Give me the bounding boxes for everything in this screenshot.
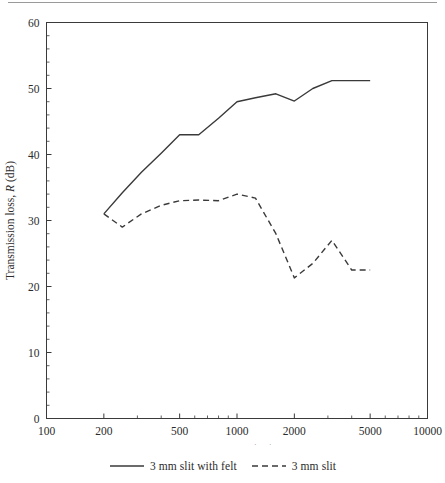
line-chart: 10020050010002000500010000 0102030405060…: [0, 0, 445, 445]
legend-entry-dashed: 3 mm slit: [251, 460, 336, 472]
y-tick-label: 50: [28, 83, 40, 95]
x-tick-label: 10000: [413, 425, 442, 437]
y-tick-label: 10: [28, 347, 40, 359]
y-tick-label: 30: [28, 215, 40, 227]
transmission-loss-figure: 10020050010002000500010000 0102030405060…: [0, 0, 445, 483]
data-series-layer: [104, 81, 370, 278]
x-tick-label: 5000: [359, 425, 382, 437]
y-axis-ticks: [47, 23, 52, 419]
plot-area-wrapper: 10020050010002000500010000 0102030405060…: [0, 0, 445, 445]
axis-titles: Frequency (Hz)Transmission loss, R (dB): [4, 161, 273, 445]
x-tick-label: 100: [38, 425, 56, 437]
x-axis-title: Frequency (Hz): [201, 443, 274, 446]
legend-entry-solid: 3 mm slit with felt: [109, 460, 237, 472]
x-tick-label: 2000: [283, 425, 306, 437]
x-tick-label: 1000: [226, 425, 249, 437]
y-tick-label: 0: [34, 413, 40, 425]
chart-legend: 3 mm slit with felt 3 mm slit: [0, 452, 445, 480]
legend-label-dashed: 3 mm slit: [292, 460, 336, 472]
x-tick-label: 200: [95, 425, 113, 437]
y-axis-tick-labels: 0102030405060: [28, 17, 40, 425]
legend-swatch-solid-line: [109, 461, 145, 471]
y-tick-label: 20: [28, 281, 40, 293]
x-axis-tick-labels: 10020050010002000500010000: [38, 425, 442, 437]
y-tick-label: 40: [28, 149, 40, 161]
legend-swatch-dashed-line: [251, 461, 287, 471]
series-line-2: [104, 194, 370, 278]
x-tick-label: 500: [171, 425, 189, 437]
legend-label-solid: 3 mm slit with felt: [150, 460, 237, 472]
x-axis-ticks: [47, 414, 428, 419]
y-tick-label: 60: [28, 17, 40, 29]
axis-frame: [47, 23, 428, 419]
y-axis-title: Transmission loss, R (dB): [4, 161, 17, 280]
